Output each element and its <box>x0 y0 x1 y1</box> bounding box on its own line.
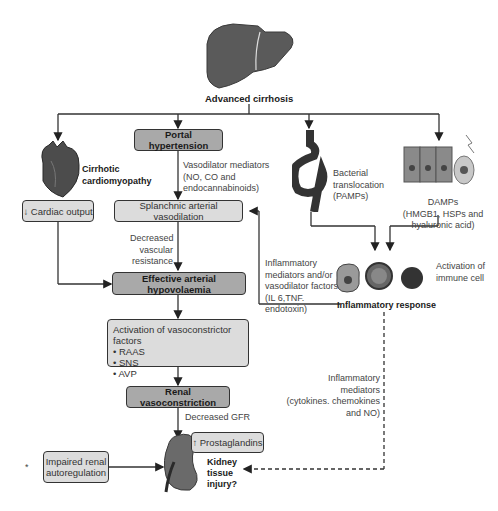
liver-icon <box>203 22 295 92</box>
damps-label: DAMPs (HMGB1, HSPs and hyaluronic acid) <box>402 197 484 232</box>
vasoconstrictor-item: • SNS <box>113 357 243 368</box>
splanchnic-vasodilation-box: Splanchnic arterial vasodilation <box>114 200 243 222</box>
portal-hypertension-label: Portal hypertension <box>135 129 222 151</box>
inflammatory-cytokines-label: Inflammatory mediators (cytokines. chemo… <box>286 373 380 419</box>
intestine-icon <box>292 130 332 212</box>
asterisk-mark: * <box>25 462 29 474</box>
cardiac-output-box: ↓ Cardiac output <box>22 200 94 222</box>
vasodilator-mediators-label: Vasodilator mediators (NO, CO and endoca… <box>183 160 269 195</box>
prostaglandins-label: ↑ Prostaglandins <box>192 437 262 448</box>
bacterial-translocation-label: Bacterial translocation (PAMPs) <box>333 168 384 203</box>
heart-icon <box>35 141 85 201</box>
portal-hypertension-box: Portal hypertension <box>134 129 223 151</box>
effective-hypovolaemia-box: Effective arterial hypovolaemia <box>112 272 246 295</box>
cardiac-output-label: ↓ Cardiac output <box>23 206 92 217</box>
cirrhotic-cardiomyopathy-label: Cirrhotic cardiomyopathy <box>82 164 152 187</box>
impaired-autoregulation-box: Impaired renal autoregulation <box>43 451 109 483</box>
splanchnic-vasodilation-label: Splanchnic arterial vasodilation <box>115 200 242 222</box>
immune-cells-icon <box>333 260 433 300</box>
decreased-resistance-label: Decreased vascular resistance <box>130 233 173 268</box>
kidney-injury-label: Kidney tissue injury? <box>207 457 237 490</box>
advanced-cirrhosis-label: Advanced cirrhosis <box>205 93 293 105</box>
vasoconstrictor-activation-box: Activation of vasoconstrictor factors • … <box>107 319 249 367</box>
decreased-gfr-label: Decreased GFR <box>185 412 250 424</box>
vasoconstrictor-item: • AVP <box>113 368 243 379</box>
inflammatory-vasodilator-label: Inflammatory mediators and/or vasodilato… <box>265 258 338 316</box>
prostaglandins-box: ↑ Prostaglandins <box>191 432 264 453</box>
inflammatory-response-label: Inflammatory response <box>337 300 436 312</box>
epithelial-cells-icon <box>402 135 480 195</box>
activation-immune-label: Activation of immune cell <box>436 261 485 284</box>
vasoconstrictor-title: Activation of vasoconstrictor factors <box>113 324 243 346</box>
renal-vasoconstriction-box: Renal vasoconstriction <box>126 386 230 408</box>
effective-hypovolaemia-label: Effective arterial hypovolaemia <box>113 273 245 295</box>
vasoconstrictor-item: • RAAS <box>113 346 243 357</box>
renal-vasoconstriction-label: Renal vasoconstriction <box>127 386 229 408</box>
